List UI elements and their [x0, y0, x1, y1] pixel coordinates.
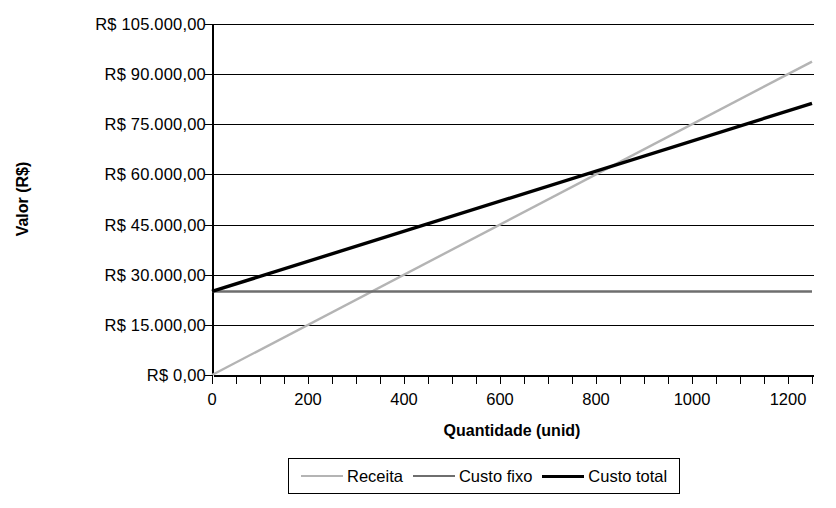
legend-label: Receita	[347, 468, 403, 484]
x-axis-tick	[500, 375, 501, 384]
y-tick-label: R$ 15.000,00	[34, 317, 206, 333]
x-axis-minor-tick	[620, 375, 621, 384]
x-axis-minor-tick	[380, 375, 381, 384]
x-tick-label: 600	[455, 390, 545, 409]
legend-item[interactable]: Custo fixo	[413, 468, 532, 484]
x-axis-minor-tick	[668, 375, 669, 384]
series-line-custo-total	[212, 103, 812, 291]
x-axis-minor-tick	[548, 375, 549, 384]
x-axis-baseline	[214, 375, 814, 377]
y-tick-label: R$ 0,00	[34, 367, 206, 383]
legend-swatch-icon	[301, 475, 343, 477]
y-axis-tick	[205, 124, 213, 125]
y-tick-label: R$ 90.000,00	[34, 66, 206, 82]
y-tick-label: R$ 30.000,00	[34, 267, 206, 283]
x-axis-minor-tick	[284, 375, 285, 384]
series-layer	[212, 24, 812, 375]
x-axis-minor-tick	[356, 375, 357, 384]
legend-label: Custo fixo	[459, 468, 532, 484]
legend-swatch-icon	[413, 475, 455, 477]
x-axis-tick	[596, 375, 597, 384]
x-axis-tick	[404, 375, 405, 384]
legend-item[interactable]: Custo total	[542, 468, 667, 484]
y-axis-tick	[205, 74, 213, 75]
y-axis-tick	[205, 325, 213, 326]
x-axis-minor-tick	[236, 375, 237, 384]
x-axis-tick	[212, 375, 213, 384]
x-axis-minor-tick	[524, 375, 525, 384]
legend-label: Custo total	[588, 468, 667, 484]
x-axis-tick	[308, 375, 309, 384]
x-axis-minor-tick	[260, 375, 261, 384]
x-axis-minor-tick	[764, 375, 765, 384]
x-axis-tick	[788, 375, 789, 384]
y-axis-tick	[205, 174, 213, 175]
x-axis-minor-tick	[716, 375, 717, 384]
y-axis-tick	[205, 225, 213, 226]
x-axis-minor-tick	[476, 375, 477, 384]
y-axis-tick	[205, 24, 213, 25]
x-axis-tick	[692, 375, 693, 384]
x-axis-minor-tick	[332, 375, 333, 384]
x-axis-minor-tick	[572, 375, 573, 384]
x-tick-label: 0	[167, 390, 257, 409]
x-tick-label: 400	[359, 390, 449, 409]
y-axis-tick	[205, 275, 213, 276]
x-tick-label: 1200	[743, 390, 833, 409]
x-axis-minor-tick	[452, 375, 453, 384]
y-tick-label: R$ 105.000,00	[34, 16, 206, 32]
x-axis-minor-tick	[644, 375, 645, 384]
legend-item[interactable]: Receita	[301, 468, 403, 484]
legend-swatch-icon	[542, 475, 584, 478]
x-axis-title: Quantidade (unid)	[212, 422, 812, 440]
x-axis-minor-tick	[428, 375, 429, 384]
series-line-receita	[212, 62, 812, 375]
x-tick-label: 1000	[647, 390, 737, 409]
x-axis-minor-tick	[812, 375, 813, 384]
y-axis-tick-labels: R$ 0,00R$ 15.000,00R$ 30.000,00R$ 45.000…	[34, 0, 206, 508]
break-even-chart: Valor (R$) R$ 0,00R$ 15.000,00R$ 30.000,…	[0, 0, 836, 508]
y-tick-label: R$ 75.000,00	[34, 116, 206, 132]
x-tick-label: 800	[551, 390, 641, 409]
chart-legend: ReceitaCusto fixoCusto total	[288, 458, 680, 494]
y-tick-label: R$ 45.000,00	[34, 217, 206, 233]
y-tick-label: R$ 60.000,00	[34, 166, 206, 182]
y-axis-title: Valor (R$)	[14, 129, 32, 269]
x-tick-label: 200	[263, 390, 353, 409]
x-axis-minor-tick	[740, 375, 741, 384]
